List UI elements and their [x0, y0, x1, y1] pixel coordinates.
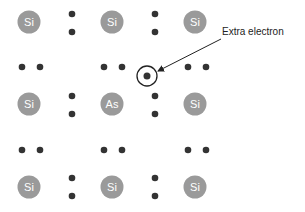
- atom-label: Si: [107, 16, 117, 28]
- electron-dot: [152, 29, 159, 36]
- electron-pair-vertical: [69, 11, 76, 36]
- electron-dot: [101, 147, 108, 154]
- atom-label: Si: [24, 16, 34, 28]
- callout-group: Extra electron: [158, 26, 284, 71]
- electron-dot: [69, 175, 76, 182]
- electron-pair-horizontal: [185, 147, 210, 154]
- electron-dot: [152, 175, 159, 182]
- electron-dot: [152, 93, 159, 100]
- electron-dot: [37, 64, 44, 71]
- extra-electron-label: Extra electron: [222, 26, 284, 37]
- electron-dot: [69, 93, 76, 100]
- extra-electron-group: [137, 66, 157, 86]
- atom-label: Si: [190, 98, 200, 110]
- electron-pair-vertical: [152, 93, 159, 118]
- atom-label: Si: [107, 181, 117, 193]
- electron-dot: [119, 147, 126, 154]
- atom-si: Si: [184, 176, 207, 199]
- electron-dot: [152, 111, 159, 118]
- atom-si: Si: [18, 176, 41, 199]
- electron-dot: [69, 29, 76, 36]
- electron-dot: [69, 111, 76, 118]
- atom-label: Si: [190, 16, 200, 28]
- electron-pair-vertical: [152, 11, 159, 36]
- atoms-layer: SiSiSiSiAsSiSiSiSi: [18, 11, 207, 199]
- electron-dot: [119, 64, 126, 71]
- electron-dot: [185, 64, 192, 71]
- atom-si: Si: [101, 11, 124, 34]
- atom-si: Si: [18, 11, 41, 34]
- electron-pair-horizontal: [19, 64, 44, 71]
- electron-dot: [101, 64, 108, 71]
- atom-as: As: [101, 93, 124, 116]
- electron-pair-vertical: [69, 175, 76, 200]
- electron-pair-horizontal: [101, 147, 126, 154]
- atom-si: Si: [101, 176, 124, 199]
- electron-dot: [185, 147, 192, 154]
- atom-si: Si: [184, 93, 207, 116]
- electron-pair-horizontal: [101, 64, 126, 71]
- lattice-diagram: SiSiSiSiAsSiSiSiSi Extra electron: [0, 0, 305, 212]
- atom-si: Si: [184, 11, 207, 34]
- electron-dot: [152, 193, 159, 200]
- electron-pair-horizontal: [185, 64, 210, 71]
- electron-dot: [19, 147, 26, 154]
- electron-dot: [203, 147, 210, 154]
- extra-electron-dot: [144, 73, 151, 80]
- atom-label: Si: [190, 181, 200, 193]
- electron-dot: [203, 64, 210, 71]
- electron-dot: [37, 147, 44, 154]
- electron-dot: [69, 193, 76, 200]
- electron-pair-vertical: [152, 175, 159, 200]
- electron-dot: [69, 11, 76, 18]
- electron-pair-horizontal: [19, 147, 44, 154]
- electron-pair-vertical: [69, 93, 76, 118]
- electron-dot: [19, 64, 26, 71]
- atom-label: Si: [24, 98, 34, 110]
- atom-label: Si: [24, 181, 34, 193]
- electron-dot: [152, 11, 159, 18]
- atom-si: Si: [18, 93, 41, 116]
- atom-label: As: [106, 98, 119, 110]
